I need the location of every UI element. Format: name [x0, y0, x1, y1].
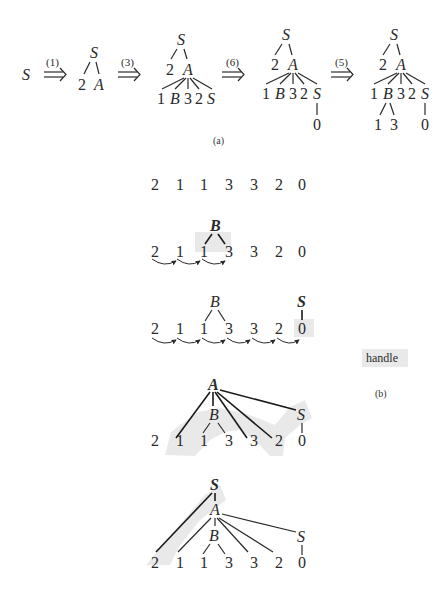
token: 2: [275, 176, 283, 193]
token: 2: [151, 554, 159, 571]
rule-label-4: (5): [335, 56, 348, 69]
parse-row-3: B S 2 1 1 3 3 2 0: [151, 293, 314, 343]
derivation-arrow-3: (6): [222, 56, 244, 81]
tree-node: S: [282, 26, 290, 43]
token: 0: [298, 554, 306, 571]
token: 3: [250, 176, 258, 193]
token: 1: [176, 243, 184, 260]
start-symbol: S: [22, 66, 30, 83]
tree-node: 2: [379, 56, 387, 73]
tree-node: B: [209, 217, 221, 234]
tree-node: B: [383, 85, 393, 102]
tree-node: S: [421, 85, 429, 102]
token: 1: [200, 320, 208, 337]
token: 0: [298, 243, 306, 260]
tree-node: A: [207, 376, 219, 393]
token: 2: [151, 432, 159, 449]
tree-node: 3: [390, 116, 398, 133]
token: 1: [176, 432, 184, 449]
derivation-arrow-4: (5): [331, 56, 353, 81]
token: 1: [200, 243, 208, 260]
token: 3: [250, 432, 258, 449]
handle-legend: handle: [362, 349, 408, 367]
tree-step-1: S 2 A: [78, 44, 104, 93]
token: 3: [225, 554, 233, 571]
tree-node: A: [287, 56, 298, 73]
token: 1: [176, 320, 184, 337]
tree-node: B: [209, 527, 219, 544]
tree-node: A: [93, 76, 104, 93]
token: 1: [200, 176, 208, 193]
tree-node: A: [209, 501, 220, 518]
tree-node: 2: [166, 61, 174, 78]
tree-node: 3: [289, 85, 297, 102]
token: 2: [151, 176, 159, 193]
token: 2: [275, 554, 283, 571]
tree-step-4: S 2 A 1 B 3 2 S 1 3 0: [370, 26, 429, 133]
rule-label-2: (3): [121, 56, 134, 69]
tree-node: 0: [421, 116, 429, 133]
caption-a: (a): [213, 135, 224, 147]
tree-node: B: [275, 85, 285, 102]
derivation-arrow-1: (1): [44, 56, 66, 81]
tree-node: 1: [157, 90, 165, 107]
rule-label-1: (1): [46, 56, 59, 69]
parse-row-4: A B S 2 1 1 3 3 2 0: [151, 376, 312, 456]
tree-node: S: [313, 85, 321, 102]
tree-step-3: S 2 A 1 B 3 2 S 0: [262, 26, 321, 133]
handle-highlight: [146, 485, 226, 565]
tree-node: S: [207, 90, 215, 107]
tree-node: A: [182, 61, 193, 78]
tree-node: S: [210, 476, 219, 493]
token: 3: [225, 432, 233, 449]
token: 3: [225, 320, 233, 337]
token: 3: [225, 176, 233, 193]
parse-steps: 2 1 1 3 3 2 0 B 2 1 1 3 3 2 0: [146, 176, 408, 571]
token: 1: [176, 554, 184, 571]
tree-node: 1: [374, 116, 382, 133]
parse-figure: S (1) S 2 A (3) S 2 A: [0, 0, 441, 593]
tree-node: S: [177, 31, 185, 48]
tree-node: S: [297, 293, 306, 310]
tree-node: S: [297, 528, 305, 545]
token: 3: [225, 243, 233, 260]
tree-node: 2: [195, 90, 203, 107]
tree-node: 3: [184, 90, 192, 107]
input-string-row: 2 1 1 3 3 2 0: [151, 176, 306, 193]
tree-node: 3: [397, 85, 405, 102]
token: 3: [250, 320, 258, 337]
token: 1: [200, 554, 208, 571]
rule-label-3: (6): [226, 56, 239, 69]
token: 3: [250, 243, 258, 260]
token: 0: [298, 432, 306, 449]
token: 0: [298, 320, 306, 337]
tree-step-2: S 2 A 1 B 3 2 S: [157, 31, 215, 107]
token: 2: [275, 243, 283, 260]
token: 3: [250, 554, 258, 571]
tree-node: 2: [78, 76, 86, 93]
tree-node: S: [297, 406, 305, 423]
derivation-sequence: S (1) S 2 A (3) S 2 A: [22, 26, 429, 147]
tree-node: A: [395, 56, 406, 73]
handle-label: handle: [366, 351, 398, 365]
tree-node: S: [390, 26, 398, 43]
derivation-arrow-2: (3): [118, 56, 140, 81]
token: 1: [200, 432, 208, 449]
tree-node: 2: [271, 56, 279, 73]
tree-node: 0: [313, 116, 321, 133]
tree-node: B: [170, 90, 180, 107]
parse-row-5: S A B S 2 1 1 3 3 2 0: [146, 476, 306, 571]
caption-b: (b): [375, 388, 387, 400]
token: 1: [176, 176, 184, 193]
tree-node: S: [90, 44, 98, 61]
token: 2: [151, 243, 159, 260]
tree-node: 1: [370, 85, 378, 102]
token: 0: [298, 176, 306, 193]
token: 2: [151, 320, 159, 337]
token: 2: [275, 320, 283, 337]
parse-row-2: B 2 1 1 3 3 2 0: [151, 217, 306, 264]
tree-node: B: [210, 293, 220, 310]
tree-node: 2: [300, 85, 308, 102]
tree-node: 2: [408, 85, 416, 102]
token: 2: [275, 432, 283, 449]
